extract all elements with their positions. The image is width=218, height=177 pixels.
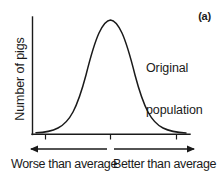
figure-panel-a: Number of pigs (a) Original population W… xyxy=(0,0,218,177)
arrow-left-icon xyxy=(30,145,107,152)
curve-annotation: Original population xyxy=(146,33,203,145)
x-axis-caption-right: Better than average xyxy=(113,157,216,171)
curve-annotation-line-1: Original xyxy=(146,61,203,75)
x-axis-caption-left: Worse than average xyxy=(11,157,117,171)
arrow-right-icon xyxy=(114,145,195,152)
panel-label: (a) xyxy=(198,10,211,22)
y-axis-label: Number of pigs xyxy=(13,12,31,147)
curve-annotation-line-2: population xyxy=(146,103,203,117)
